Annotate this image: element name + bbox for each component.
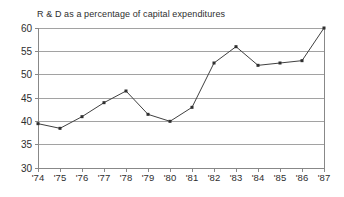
data-point-74	[37, 122, 40, 125]
x-tick-label-3: '77	[98, 172, 110, 183]
x-tick-label-4: '78	[120, 172, 132, 183]
x-tick-label-2: '76	[76, 172, 88, 183]
y-tick-label-45: 45	[21, 93, 33, 104]
data-point-76	[81, 115, 84, 118]
x-tick-label-10: '84	[252, 172, 264, 183]
x-tick-label-0: '74	[32, 172, 44, 183]
data-point-87	[323, 27, 326, 30]
data-point-82	[213, 62, 216, 65]
data-point-75	[59, 127, 62, 130]
data-point-84	[257, 64, 260, 67]
line-chart: 30354045505560'74'75'76'77'78'79'80'81'8…	[0, 0, 344, 197]
x-tick-label-9: '83	[230, 172, 242, 183]
y-tick-label-60: 60	[21, 23, 33, 34]
x-tick-label-7: '81	[186, 172, 198, 183]
y-tick-label-35: 35	[21, 139, 33, 150]
x-tick-label-11: '85	[274, 172, 286, 183]
data-point-81	[191, 106, 194, 109]
data-point-78	[125, 90, 128, 93]
x-tick-label-8: '82	[208, 172, 220, 183]
y-tick-label-40: 40	[21, 116, 33, 127]
data-point-80	[169, 120, 172, 123]
data-point-85	[279, 62, 282, 65]
y-tick-label-50: 50	[21, 69, 33, 80]
x-tick-label-1: '75	[54, 172, 66, 183]
y-tick-label-55: 55	[21, 46, 33, 57]
data-point-79	[147, 113, 150, 116]
chart-panel: R & D as a percentage of capital expendi…	[0, 0, 344, 197]
x-tick-label-5: '79	[142, 172, 154, 183]
y-tick-label-30: 30	[21, 163, 33, 174]
data-point-77	[103, 101, 106, 104]
x-tick-label-12: '86	[296, 172, 308, 183]
x-tick-label-6: '80	[164, 172, 176, 183]
data-line	[38, 28, 324, 128]
x-tick-label-13: '87	[318, 172, 330, 183]
data-point-86	[301, 59, 304, 62]
data-point-83	[235, 45, 238, 48]
